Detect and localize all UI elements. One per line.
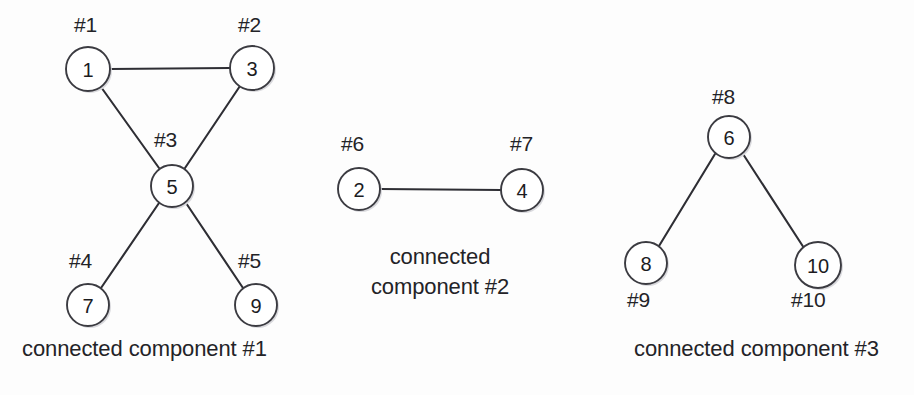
edge-1-3: [110, 68, 230, 69]
node-9[interactable]: 9: [235, 284, 279, 328]
index-label-node-10: #10: [791, 289, 825, 310]
node-group-component-1: 1 3 5 7 9: [66, 46, 279, 328]
index-label-node-2: #6: [341, 133, 364, 154]
edge-3-5: [185, 86, 240, 168]
caption-component-3: connected component #3: [634, 336, 879, 362]
node-3[interactable]: 3: [230, 46, 276, 92]
index-label-node-8: #9: [627, 289, 650, 310]
edge-group-component-3: [659, 154, 804, 248]
node-4[interactable]: 4: [501, 169, 545, 213]
node-8[interactable]: 8: [625, 242, 669, 286]
node-5[interactable]: 5: [151, 165, 195, 209]
node-6[interactable]: 6: [708, 116, 752, 160]
node-5-label: 5: [166, 176, 177, 198]
node-6-label: 6: [723, 127, 734, 149]
index-label-node-5: #3: [154, 129, 177, 150]
index-label-node-1: #1: [74, 14, 97, 35]
edge-1-5: [101, 87, 159, 168]
node-4-label: 4: [516, 180, 527, 202]
node-group-component-3: 6 8 10: [625, 116, 843, 290]
edge-6-10: [743, 154, 804, 248]
node-7-label: 7: [82, 295, 93, 317]
caption-component-2-line-1: connected: [352, 244, 528, 270]
edge-group-component-2: [380, 189, 501, 190]
node-10-label: 10: [807, 255, 829, 277]
node-1[interactable]: 1: [66, 47, 112, 93]
node-2[interactable]: 2: [338, 168, 382, 212]
index-label-node-9: #5: [238, 250, 261, 271]
caption-component-2-line-2: component #2: [352, 274, 528, 300]
node-8-label: 8: [640, 253, 651, 275]
index-label-node-3: #2: [238, 14, 261, 35]
node-2-label: 2: [353, 179, 364, 201]
node-7[interactable]: 7: [67, 284, 111, 328]
edge-5-7: [101, 203, 159, 288]
node-9-label: 9: [250, 295, 261, 317]
index-label-node-4: #7: [510, 133, 533, 154]
edge-2-4: [380, 189, 501, 190]
node-3-label: 3: [246, 58, 257, 80]
edge-6-8: [659, 154, 715, 246]
index-label-node-7: #4: [69, 250, 92, 271]
edge-5-9: [186, 203, 243, 288]
caption-component-1: connected component #1: [22, 336, 267, 362]
node-10[interactable]: 10: [795, 242, 843, 290]
node-1-label: 1: [82, 59, 93, 81]
index-label-node-6: #8: [712, 86, 735, 107]
diagram-canvas: 1 3 5 7 9: [0, 0, 914, 395]
